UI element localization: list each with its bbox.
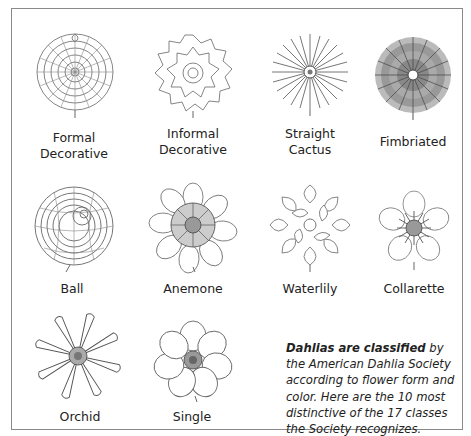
- label-line-1: Formal: [19, 130, 129, 146]
- collarette-flower-illustration: [376, 186, 452, 270]
- label-line-2: Cactus: [255, 142, 365, 158]
- waterlily-flower-illustration: [266, 178, 354, 272]
- label-line-1: Straight: [255, 126, 365, 142]
- label-line-2: Decorative: [138, 142, 248, 158]
- anemone-label: Anemone: [138, 281, 248, 297]
- anemone-flower-illustration: [150, 178, 236, 272]
- formal-decorative-label: Formal Decorative: [19, 130, 129, 162]
- straight-cactus-flower-illustration: [268, 28, 352, 116]
- waterlily-label: Waterlily: [255, 281, 365, 297]
- single-flower-illustration: [152, 318, 234, 402]
- figure-caption: Dahlias are classified by the American D…: [286, 340, 462, 436]
- orchid-label: Orchid: [25, 409, 135, 425]
- label-line-1: Anemone: [138, 281, 248, 297]
- single-label: Single: [137, 409, 247, 425]
- fimbriated-flower-illustration: [372, 30, 454, 120]
- caption-body: by the American Dahlia Society according…: [286, 341, 454, 436]
- ball-label: Ball: [17, 281, 127, 297]
- caption-lead: Dahlias are classified: [286, 341, 426, 355]
- informal-decorative-flower-illustration: [150, 28, 236, 118]
- label-line-1: Single: [137, 409, 247, 425]
- collarette-label: Collarette: [359, 281, 469, 297]
- label-line-1: Ball: [17, 281, 127, 297]
- ball-flower-illustration: [32, 180, 116, 272]
- label-line-1: Orchid: [25, 409, 135, 425]
- orchid-flower-illustration: [28, 306, 128, 406]
- straight-cactus-label: Straight Cactus: [255, 126, 365, 158]
- label-line-1: Informal: [138, 126, 248, 142]
- informal-decorative-label: Informal Decorative: [138, 126, 248, 158]
- label-line-1: Waterlily: [255, 281, 365, 297]
- formal-decorative-flower-illustration: [33, 26, 117, 118]
- fimbriated-label: Fimbriated: [358, 134, 468, 150]
- label-line-1: Fimbriated: [358, 134, 468, 150]
- label-line-2: Decorative: [19, 146, 129, 162]
- label-line-1: Collarette: [359, 281, 469, 297]
